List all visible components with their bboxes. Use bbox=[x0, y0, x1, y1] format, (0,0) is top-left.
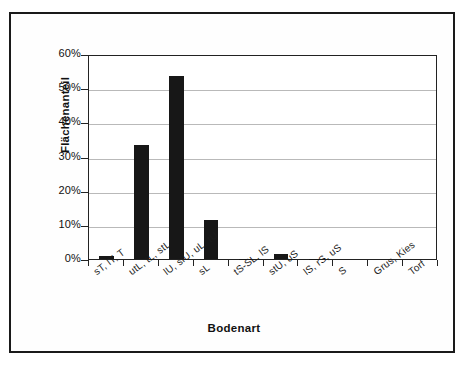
x-axis-tick-mark bbox=[402, 260, 403, 266]
x-axis-title: Bodenart bbox=[11, 322, 457, 334]
x-axis-tick-mark bbox=[228, 260, 229, 266]
y-axis-tick-mark bbox=[81, 89, 88, 90]
x-axis-tick-mark bbox=[123, 260, 124, 266]
x-axis-tick-mark bbox=[193, 260, 194, 266]
x-axis-tick-mark bbox=[367, 260, 368, 266]
bar bbox=[99, 256, 114, 259]
y-axis-tick-label: 0% bbox=[29, 252, 81, 264]
bar bbox=[274, 254, 289, 259]
y-axis-tick-mark bbox=[81, 123, 88, 124]
x-axis-tick-label: S bbox=[336, 264, 348, 277]
plot-area bbox=[88, 55, 437, 260]
bar bbox=[239, 259, 254, 260]
y-axis-tick-mark bbox=[81, 192, 88, 193]
bar bbox=[204, 220, 219, 259]
x-axis-tick-label: Torf bbox=[406, 258, 427, 277]
y-axis-tick-label: 60% bbox=[29, 47, 81, 59]
x-axis-tick-mark bbox=[158, 260, 159, 266]
x-axis-tick-mark bbox=[263, 260, 264, 266]
x-axis-tick-mark bbox=[297, 260, 298, 266]
x-axis-tick-mark bbox=[88, 260, 89, 266]
x-axis-tick-mark bbox=[437, 260, 438, 266]
y-axis-tick-label: 10% bbox=[29, 218, 81, 230]
x-axis-tick-label: sL bbox=[197, 262, 212, 277]
y-axis-tick-mark bbox=[81, 226, 88, 227]
y-axis-tick-mark bbox=[81, 260, 88, 261]
bar bbox=[134, 145, 149, 259]
gridline bbox=[89, 90, 436, 91]
y-axis-tick-label: 50% bbox=[29, 81, 81, 93]
y-axis-tick-label: 40% bbox=[29, 115, 81, 127]
y-axis-tick-label: 30% bbox=[29, 150, 81, 162]
chart-outer-frame: Flächenanteil sT, lT, TutL, tL, stLlU, s… bbox=[9, 12, 455, 353]
x-axis-tick-mark bbox=[332, 260, 333, 266]
bar bbox=[169, 76, 184, 259]
y-axis-tick-mark bbox=[81, 158, 88, 159]
y-axis-tick-label: 20% bbox=[29, 184, 81, 196]
y-axis-tick-mark bbox=[81, 55, 88, 56]
gridline bbox=[89, 124, 436, 125]
